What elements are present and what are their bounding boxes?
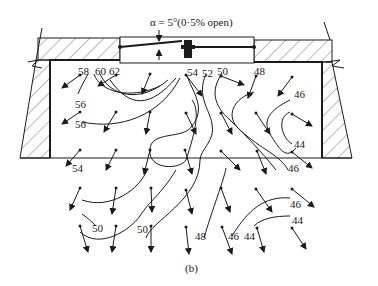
contour-labels: 58 60 62 54 52 50 48 46 56 56 44 46 54 4… bbox=[72, 65, 306, 242]
contour-label: 46 bbox=[288, 162, 300, 174]
contour-label: 48 bbox=[254, 65, 266, 77]
vent-opening bbox=[118, 30, 256, 63]
contour-label: 54 bbox=[187, 66, 199, 78]
contour-label: 48 bbox=[195, 230, 207, 242]
contour-label: 44 bbox=[244, 230, 256, 242]
contour-label: 54 bbox=[72, 162, 84, 174]
contour-label: 56 bbox=[75, 98, 87, 110]
contour-label: 44 bbox=[294, 138, 306, 150]
contour-label: 46 bbox=[228, 230, 240, 242]
airflow-diagram: α = 5°(0·5% open) bbox=[0, 0, 378, 286]
contour-label: 50 bbox=[92, 222, 104, 234]
contour-label: 58 bbox=[78, 65, 90, 77]
contour-label: 44 bbox=[292, 214, 304, 226]
contour-label: 46 bbox=[290, 198, 302, 210]
contour-label: 56 bbox=[75, 118, 87, 130]
contour-label: 52 bbox=[202, 67, 213, 79]
contour-label: 46 bbox=[294, 88, 306, 100]
contour-label: 50 bbox=[137, 223, 149, 235]
figure-caption: (b) bbox=[185, 262, 198, 275]
opening-angle-annotation: α = 5°(0·5% open) bbox=[150, 16, 233, 29]
contour-label: 50 bbox=[217, 65, 229, 77]
contour-label: 60 bbox=[95, 65, 107, 77]
contour-label: 62 bbox=[109, 65, 120, 77]
diagram-canvas: α = 5°(0·5% open) bbox=[0, 0, 378, 286]
